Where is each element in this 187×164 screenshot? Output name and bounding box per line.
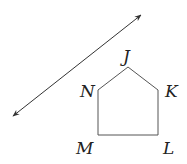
pentagon-jklmn <box>98 67 158 135</box>
vertex-label-k: K <box>164 81 179 101</box>
diagram-canvas: JKLMN <box>0 0 187 164</box>
vertex-label-m: M <box>75 138 94 158</box>
vertex-label-n: N <box>79 81 96 101</box>
double-arrow-line <box>13 15 141 116</box>
vertex-label-j: J <box>120 46 131 66</box>
vertex-label-l: L <box>162 138 174 158</box>
